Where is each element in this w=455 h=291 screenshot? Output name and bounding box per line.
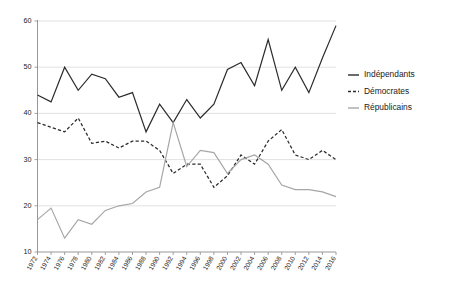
y-tick-label-30: 30 xyxy=(24,155,32,164)
chart-container: 102030405060 197219741976197819801982198… xyxy=(0,0,455,291)
x-tick-label-2008: 2008 xyxy=(269,255,283,271)
x-tick-label-1974: 1974 xyxy=(39,255,53,271)
y-tick-label-40: 40 xyxy=(24,108,32,117)
series-line-ind-pendants xyxy=(38,26,337,132)
x-tick-labels: 1972197419761978198019821984198619881990… xyxy=(25,255,337,271)
x-axis xyxy=(38,252,337,255)
gridlines xyxy=(38,21,337,206)
x-tick-label-1996: 1996 xyxy=(188,255,202,271)
x-tick-label-2012: 2012 xyxy=(296,255,310,271)
x-tick-label-1978: 1978 xyxy=(66,255,80,271)
series-line-r-publicains xyxy=(38,123,337,239)
x-tick-label-2014: 2014 xyxy=(310,255,324,271)
x-tick-label-1982: 1982 xyxy=(93,255,107,271)
chart-legend: IndépendantsDémocratesRépublicains xyxy=(348,69,415,112)
x-tick-label-1998: 1998 xyxy=(201,255,215,271)
legend-label-d-mocrates: Démocrates xyxy=(364,86,409,96)
x-tick-label-2010: 2010 xyxy=(283,255,297,271)
line-chart: 102030405060 197219741976197819801982198… xyxy=(0,0,455,291)
y-tick-label-20: 20 xyxy=(24,201,32,210)
x-tick-label-2004: 2004 xyxy=(242,255,256,271)
x-tick-label-1994: 1994 xyxy=(174,255,188,271)
x-tick-label-1992: 1992 xyxy=(161,255,175,271)
y-tick-label-50: 50 xyxy=(24,62,32,71)
x-tick-label-2006: 2006 xyxy=(256,255,270,271)
x-tick-label-1980: 1980 xyxy=(79,255,93,271)
x-tick-label-1986: 1986 xyxy=(120,255,134,271)
x-tick-label-2016: 2016 xyxy=(323,255,337,271)
x-tick-label-1976: 1976 xyxy=(52,255,66,271)
y-tick-label-60: 60 xyxy=(24,16,32,25)
x-tick-label-1990: 1990 xyxy=(147,255,161,271)
y-tick-labels: 102030405060 xyxy=(24,16,32,256)
x-tick-label-1972: 1972 xyxy=(25,255,39,271)
x-tick-label-2000: 2000 xyxy=(215,255,229,271)
x-tick-label-1984: 1984 xyxy=(106,255,120,271)
y-tick-label-10: 10 xyxy=(24,247,32,256)
series-line-d-mocrates xyxy=(38,118,337,187)
legend-label-r-publicains: Républicains xyxy=(364,102,412,112)
x-tick-label-2002: 2002 xyxy=(228,255,242,271)
y-axis xyxy=(35,20,38,252)
data-series-group xyxy=(38,26,337,239)
legend-label-ind-pendants: Indépendants xyxy=(364,69,415,79)
x-tick-label-1988: 1988 xyxy=(134,255,148,271)
